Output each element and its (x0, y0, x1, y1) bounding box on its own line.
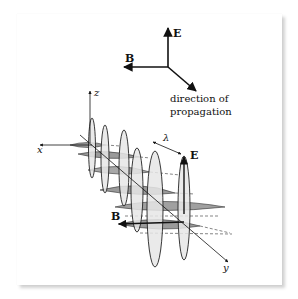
propagation-label-line1: direction of (170, 93, 230, 104)
em-wave-diagram: E B direction of propagation z x (0, 0, 298, 299)
wave-e-label: E (190, 149, 198, 162)
wavelength-label: λ (162, 132, 169, 143)
wavelength-arrow (153, 142, 181, 154)
z-axis-label: z (93, 87, 100, 98)
x-axis-label: x (37, 144, 43, 155)
e-field-wave (89, 118, 191, 267)
triad-b-label: B (125, 52, 134, 65)
triad-e-label: E (173, 27, 181, 40)
y-axis-label: y (222, 262, 229, 273)
propagation-label-line2: propagation (170, 106, 232, 117)
wave-b-label: B (111, 210, 120, 223)
field-triad: E B direction of propagation (124, 27, 232, 117)
propagation-arrow (168, 67, 196, 91)
